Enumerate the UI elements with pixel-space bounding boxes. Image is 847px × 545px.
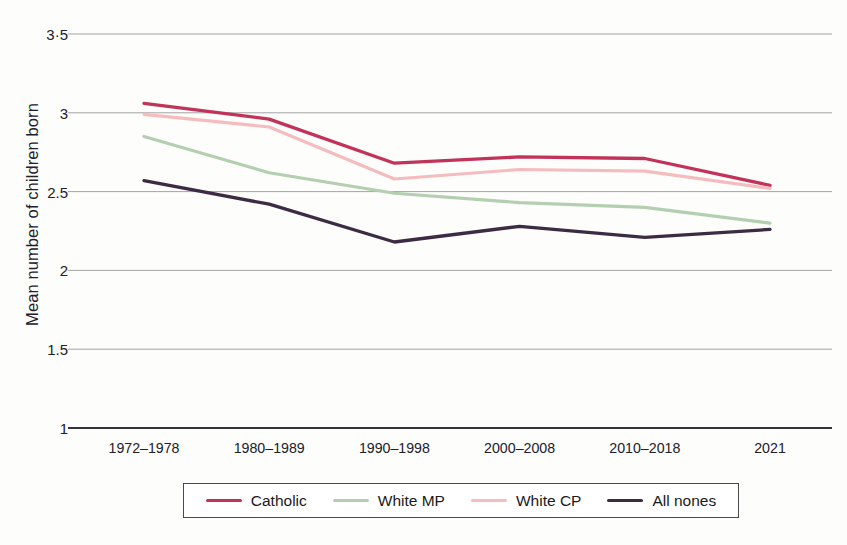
legend-swatch	[607, 499, 643, 502]
legend-label: White CP	[516, 492, 581, 510]
legend-label: All nones	[652, 492, 716, 510]
legend-item-all-nones[interactable]: All nones	[594, 492, 729, 510]
chart-legend: CatholicWhite MPWhite CPAll nones	[183, 483, 739, 518]
legend-item-white-cp[interactable]: White CP	[458, 492, 594, 510]
x-axis-tick-label: 2000–2008	[484, 440, 555, 456]
series-line-white-mp	[144, 136, 770, 223]
legend-label: Catholic	[251, 492, 307, 510]
legend-item-white-mp[interactable]: White MP	[320, 492, 458, 510]
series-line-white-cp	[144, 114, 770, 188]
legend-label: White MP	[378, 492, 445, 510]
plot-area	[0, 0, 847, 545]
x-axis-tick-label: 1980–1989	[234, 440, 305, 456]
x-axis-tick-label: 2021	[754, 440, 786, 456]
legend-swatch	[471, 499, 507, 502]
legend-swatch	[333, 499, 369, 502]
x-axis-tick-label: 2010–2018	[609, 440, 680, 456]
x-axis-tick-label: 1990–1998	[359, 440, 430, 456]
legend-swatch	[206, 499, 242, 502]
x-axis-tick-label: 1972–1978	[108, 440, 179, 456]
chart-container: Mean number of children born 11.522.533·…	[0, 0, 847, 545]
legend-item-catholic[interactable]: Catholic	[193, 492, 320, 510]
